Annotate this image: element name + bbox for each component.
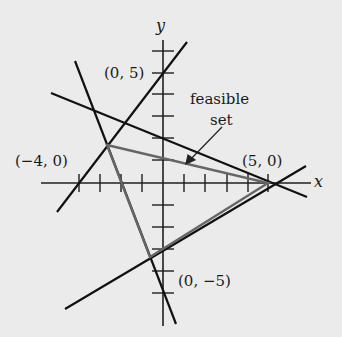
- feasible-set-diagram: y x (0, 5) (−4, 0) (5, 0) (0, −5) feasib…: [0, 0, 342, 337]
- y-axis-label: y: [155, 16, 166, 35]
- x-axis-label: x: [314, 172, 323, 191]
- feasible-label-line2: set: [210, 111, 233, 129]
- constraint-line-2: [51, 93, 307, 197]
- point-label-5-0: (5, 0): [242, 152, 282, 170]
- feasible-label-line1: feasible: [190, 90, 249, 108]
- point-label-neg4-0: (−4, 0): [15, 152, 68, 170]
- feasible-set-arrow: [186, 127, 222, 164]
- point-label-0-neg5: (0, −5): [178, 272, 231, 290]
- point-label-0-5: (0, 5): [104, 64, 144, 82]
